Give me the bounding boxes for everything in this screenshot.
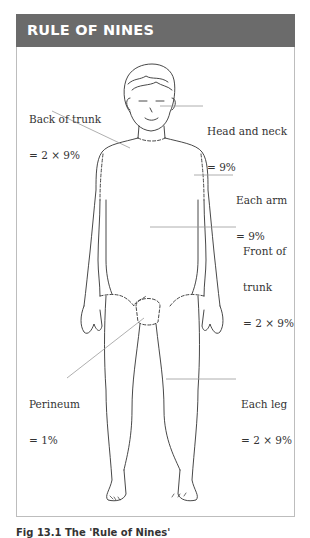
label-each-leg: Each leg = 2 × 9% bbox=[241, 374, 292, 458]
label-front-of-trunk: Front of trunk = 2 × 9% bbox=[243, 221, 294, 341]
arm-right-dashed bbox=[201, 154, 204, 200]
neckline-dashed bbox=[138, 138, 165, 141]
figure-caption: Fig 13.1 The 'Rule of Nines' bbox=[16, 527, 170, 538]
head-outline bbox=[124, 64, 175, 131]
hip-line-dashed bbox=[100, 294, 204, 306]
label-back-of-trunk: Back of trunk = 2 × 9% bbox=[29, 89, 101, 173]
leader-perineum bbox=[67, 318, 144, 378]
label-perineum: Perineum = 1% bbox=[29, 374, 80, 458]
